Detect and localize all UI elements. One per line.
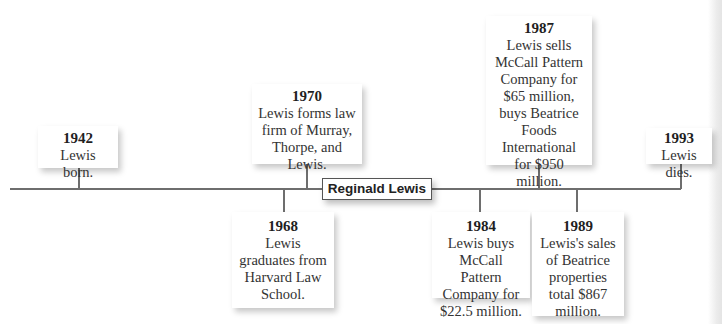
event-card-1993: 1993 Lewis dies. — [646, 128, 712, 164]
event-text: Lewis graduates from Harvard Law School. — [238, 235, 328, 303]
event-year: 1989 — [535, 218, 621, 235]
tick-1989 — [576, 188, 578, 212]
event-card-1989: 1989 Lewis's sales of Beatrice propertie… — [532, 212, 624, 316]
event-year: 1984 — [438, 218, 524, 235]
timeline-title-label: Reginald Lewis — [322, 178, 432, 200]
event-card-1987: 1987 Lewis sells McCall Pattern Company … — [486, 16, 592, 165]
event-text: Lewis forms law firm of Murray, Thorpe, … — [258, 105, 356, 173]
event-year: 1987 — [492, 20, 586, 37]
event-text: Lewis sells McCall Pattern Company for $… — [492, 37, 586, 190]
event-text: Lewis buys McCall Pattern Company for $2… — [438, 235, 524, 320]
event-text: Lewis born. — [44, 147, 112, 181]
event-year: 1993 — [648, 130, 710, 147]
event-year: 1942 — [44, 130, 112, 147]
event-card-1984: 1984 Lewis buys McCall Pattern Company f… — [432, 212, 530, 298]
event-text: Lewis dies. — [648, 147, 710, 181]
event-card-1942: 1942 Lewis born. — [38, 126, 118, 168]
event-text: Lewis's sales of Beatrice properties tot… — [535, 235, 621, 320]
tick-1968 — [283, 188, 285, 212]
tick-1984 — [479, 188, 481, 212]
event-card-1970: 1970 Lewis forms law firm of Murray, Tho… — [252, 84, 362, 164]
event-card-1968: 1968 Lewis graduates from Harvard Law Sc… — [232, 212, 334, 308]
event-year: 1970 — [258, 88, 356, 105]
event-year: 1968 — [238, 218, 328, 235]
